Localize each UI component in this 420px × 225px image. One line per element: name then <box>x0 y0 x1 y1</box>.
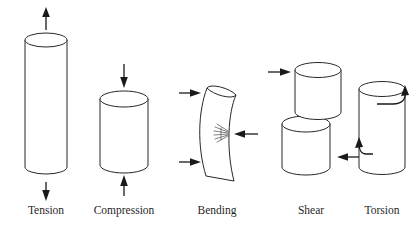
bending-arrow-upper-right <box>179 89 201 97</box>
torsion-cylinder <box>359 82 405 175</box>
bending-cylinder <box>200 86 236 181</box>
tension-arrow-up <box>42 7 50 30</box>
bending-figure: Bending <box>179 86 258 217</box>
compression-arrow-down <box>120 64 128 88</box>
tension-cylinder <box>25 33 67 174</box>
bending-arrow-left <box>234 130 258 138</box>
torsion-figure: Torsion <box>355 82 409 217</box>
shear-figure: Shear <box>268 63 360 217</box>
tension-arrow-down <box>42 182 50 201</box>
shear-arrow-right <box>268 68 291 76</box>
compression-label: Compression <box>94 204 155 217</box>
shear-upper-block <box>295 63 341 120</box>
shear-lower-block <box>282 116 330 175</box>
loading-modes-diagram: Tension Compression <box>0 0 420 225</box>
compression-cylinder <box>100 91 148 173</box>
compression-arrow-up <box>120 175 128 196</box>
shear-label: Shear <box>298 204 324 216</box>
torsion-label: Torsion <box>365 204 400 216</box>
tension-label: Tension <box>28 204 64 216</box>
bending-label: Bending <box>198 204 237 217</box>
shear-arrow-left <box>337 153 360 161</box>
compression-figure: Compression <box>94 64 155 217</box>
bending-arrow-lower-right <box>179 158 201 166</box>
tension-figure: Tension <box>25 7 67 216</box>
